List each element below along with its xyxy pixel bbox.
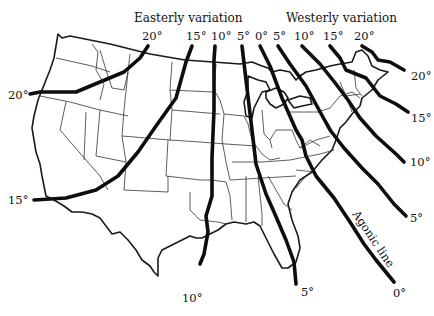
label-end-w5: 5° (410, 211, 423, 225)
isogonic-line-e10 (200, 46, 215, 264)
label-end-e20: 20° (8, 88, 28, 102)
isogonic-line-e5 (242, 46, 296, 284)
label-top-e15: 15° (186, 29, 206, 43)
label-end-w15: 15° (411, 111, 431, 125)
isogonic-line-w15 (330, 46, 408, 112)
label-end-a0: 0° (393, 286, 406, 300)
label-end-e10: 10° (182, 291, 202, 305)
label-top-e5: 5° (237, 29, 250, 43)
agonic-line-label: Agonic line (349, 207, 398, 270)
us-outline (32, 34, 388, 276)
label-top-w20: 20° (354, 29, 374, 43)
label-top-w5: 5° (273, 29, 286, 43)
label-top-a0: 0° (255, 29, 268, 43)
heading-westerly: Westerly variation (286, 11, 397, 25)
label-end-e5: 5° (301, 285, 314, 299)
label-top-e20: 20° (142, 29, 162, 43)
label-top-w10: 10° (294, 29, 314, 43)
label-end-w10: 10° (410, 155, 430, 169)
label-end-e15: 15° (8, 193, 28, 207)
label-top-e10: 10° (211, 29, 231, 43)
declination-map: Easterly variation Westerly variation 20… (0, 0, 434, 316)
isogonic-line-e20 (30, 46, 148, 94)
heading-easterly: Easterly variation (134, 11, 243, 25)
label-end-w20: 20° (411, 69, 431, 83)
isogonic-lines (30, 46, 408, 284)
label-top-w15: 15° (323, 29, 343, 43)
state-boundaries (40, 44, 362, 226)
